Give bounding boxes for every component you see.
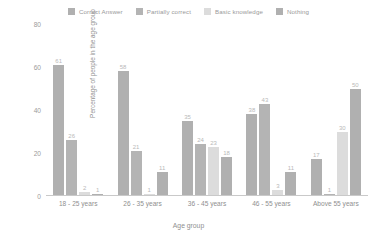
bar-value-label: 43 <box>262 97 269 103</box>
bar[interactable] <box>285 172 296 196</box>
bar-slot: 38 <box>246 24 257 196</box>
x-axis-line <box>46 195 368 196</box>
y-axis-tick-label: 40 <box>34 107 41 114</box>
bar[interactable] <box>118 71 129 196</box>
bar-chart: Correct AnswerPartially correctBasic kno… <box>0 0 377 242</box>
bar-value-label: 61 <box>55 58 62 64</box>
bar-slot: 11 <box>157 24 168 196</box>
bar-value-label: 35 <box>184 114 191 120</box>
bar-value-label: 11 <box>159 165 165 171</box>
x-axis-tick-label: 18 - 25 years <box>46 200 110 207</box>
legend-item-label: Correct Answer <box>79 8 123 15</box>
bar-slot: 43 <box>259 24 270 196</box>
y-axis-tick-label: 0 <box>37 193 41 200</box>
bar-value-label: 2 <box>83 185 86 191</box>
legend-item-label: Partially correct <box>147 8 191 15</box>
legend-item[interactable]: Nothing <box>276 8 309 15</box>
bar-slot: 50 <box>350 24 361 196</box>
bar-value-label: 24 <box>197 137 204 143</box>
y-axis-tick-label: 20 <box>34 150 41 157</box>
bar[interactable] <box>350 89 361 197</box>
bar-slot: 21 <box>131 24 142 196</box>
bar-group: 3843311 <box>239 24 303 196</box>
bar[interactable] <box>53 65 64 196</box>
bar-slot: 18 <box>221 24 232 196</box>
legend-item[interactable]: Basic knowledge <box>204 8 263 15</box>
legend-item[interactable]: Partially correct <box>136 8 191 15</box>
bar-slot: 1 <box>324 24 335 196</box>
bar-value-label: 38 <box>249 107 256 113</box>
bar[interactable] <box>195 144 206 196</box>
bar-value-label: 1 <box>147 187 150 193</box>
bar-slot: 61 <box>53 24 64 196</box>
bar[interactable] <box>259 104 270 196</box>
x-axis-tick-label: 26 - 35 years <box>110 200 174 207</box>
bar-group: 612621 <box>46 24 110 196</box>
y-axis-tick-label: 60 <box>34 64 41 71</box>
bar-value-label: 26 <box>68 133 75 139</box>
x-axis-tick-label: 36 - 45 years <box>175 200 239 207</box>
bar-value-label: 1 <box>96 187 99 193</box>
bar[interactable] <box>182 121 193 196</box>
bar[interactable] <box>337 132 348 197</box>
bar-value-label: 1 <box>328 187 331 193</box>
legend-swatch-icon <box>68 8 75 15</box>
bar[interactable] <box>208 147 219 196</box>
bar-group: 35242318 <box>175 24 239 196</box>
bar[interactable] <box>246 114 257 196</box>
bar-group: 5821111 <box>110 24 174 196</box>
x-axis-tick-labels: 18 - 25 years26 - 35 years36 - 45 years4… <box>46 200 368 207</box>
bar-value-label: 11 <box>288 165 294 171</box>
bar[interactable] <box>66 140 77 196</box>
bar-value-label: 18 <box>223 150 230 156</box>
bar-slot: 11 <box>285 24 296 196</box>
plot-area: 020406080 Percentage of people in the ag… <box>46 24 368 196</box>
bar-value-label: 23 <box>210 140 217 146</box>
bar-slot: 2 <box>79 24 90 196</box>
bar[interactable] <box>311 159 322 196</box>
chart-legend: Correct AnswerPartially correctBasic kno… <box>0 3 377 19</box>
bar-group: 1713050 <box>304 24 368 196</box>
bar[interactable] <box>131 151 142 196</box>
bar-value-label: 50 <box>352 82 359 88</box>
y-axis-tick-label: 80 <box>34 21 41 28</box>
bar-value-label: 17 <box>313 152 320 158</box>
bar-slot: 30 <box>337 24 348 196</box>
legend-swatch-icon <box>204 8 211 15</box>
legend-swatch-icon <box>276 8 283 15</box>
bar-value-label: 30 <box>339 125 346 131</box>
bar-value-label: 58 <box>120 64 127 70</box>
bar-slot: 17 <box>311 24 322 196</box>
bar-slot: 35 <box>182 24 193 196</box>
bar-slot: 24 <box>195 24 206 196</box>
bar-slot: 3 <box>272 24 283 196</box>
x-axis-tick-label: Above 55 years <box>304 200 368 207</box>
x-axis-title: Age group <box>0 222 377 229</box>
bar-slot: 1 <box>144 24 155 196</box>
bar[interactable] <box>221 157 232 196</box>
legend-item-label: Basic knowledge <box>215 8 263 15</box>
bar-groups: 61262158211113524231838433111713050 <box>46 24 368 196</box>
bar-slot: 23 <box>208 24 219 196</box>
bar-value-label: 3 <box>276 183 279 189</box>
bar-slot: 26 <box>66 24 77 196</box>
bar-slot: 58 <box>118 24 129 196</box>
bar[interactable] <box>157 172 168 196</box>
legend-swatch-icon <box>136 8 143 15</box>
x-axis-tick-label: 46 - 55 years <box>239 200 303 207</box>
bar-value-label: 21 <box>133 144 140 150</box>
bar-slot: 1 <box>92 24 103 196</box>
legend-item-label: Nothing <box>287 8 309 15</box>
